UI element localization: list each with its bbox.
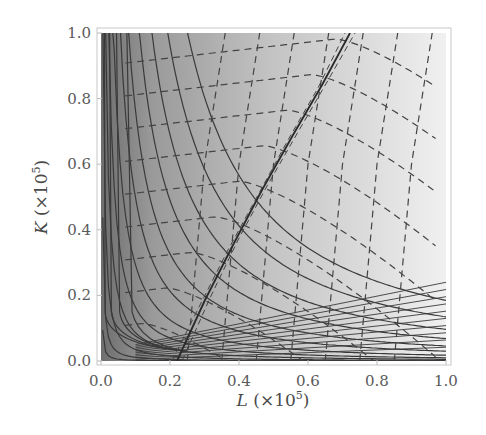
x-tick-label: 0.4 <box>227 372 251 390</box>
x-tick-label: 0.8 <box>365 372 389 390</box>
y-tick-label: 0.8 <box>67 90 91 108</box>
plot-area <box>97 17 451 376</box>
y-tick-label: 1.0 <box>67 24 91 42</box>
y-axis-label: K (×105) <box>30 160 51 235</box>
y-tick-label: 0.4 <box>67 221 91 239</box>
contour-chart: 0.00.20.40.60.81.0 0.00.20.40.60.81.0 L … <box>0 0 486 435</box>
x-tick-label: 0.6 <box>296 372 320 390</box>
y-tick-label: 0.0 <box>67 352 91 370</box>
y-tick-label: 0.2 <box>67 286 91 304</box>
x-tick-label: 0.2 <box>158 372 182 390</box>
y-tick-label: 0.6 <box>67 155 91 173</box>
x-tick-label: 1.0 <box>434 372 458 390</box>
x-axis-label: L (×105) <box>236 389 310 410</box>
x-tick-label: 0.0 <box>89 372 113 390</box>
